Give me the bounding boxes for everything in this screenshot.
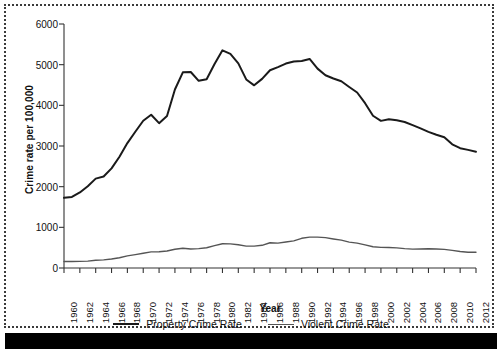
chart-plot-wrapper: Crime rate per 100,000 01000200030004000… [6,6,496,330]
legend-item[interactable]: Property Crime Rate [113,318,242,330]
screenshot-page: Crime rate per 100,000 01000200030004000… [0,0,502,349]
chart-legend: Property Crime RateViolent Crime Rate [6,318,496,330]
legend-label: Property Crime Rate [146,318,242,330]
series-line-property-crime-rate [64,50,476,198]
legend-item[interactable]: Violent Crime Rate [268,318,389,330]
bottom-black-bar [5,333,497,349]
chart-figure-frame: Crime rate per 100,000 01000200030004000… [4,4,494,328]
legend-label: Violent Crime Rate [301,318,389,330]
chart-axes [59,24,476,273]
legend-line-swatch [113,323,139,325]
chart-series-lines [64,50,476,261]
series-line-violent-crime-rate [64,237,476,261]
legend-line-swatch [268,324,294,325]
x-axis-title: Year [64,303,476,314]
